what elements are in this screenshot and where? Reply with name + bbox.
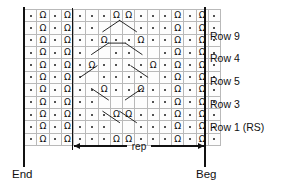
stitch-cell-purl — [184, 84, 196, 96]
knit-stitch-icon: Ω — [172, 121, 183, 132]
stitch-cell-purl — [159, 47, 171, 59]
knit-stitch-icon: Ω — [99, 35, 110, 46]
stitch-cell-purl — [74, 96, 86, 108]
stitch-cell-purl — [159, 121, 171, 133]
stitch-cell-knit: Ω — [172, 10, 184, 22]
stitch-cell-purl — [49, 47, 61, 59]
stitch-cell-knit: Ω — [172, 47, 184, 59]
stitch-cell-purl — [184, 34, 196, 46]
knit-stitch-icon: Ω — [172, 109, 183, 120]
stitch-cell-purl — [135, 121, 147, 133]
stitch-cell-purl — [147, 108, 159, 120]
stitch-cell-purl — [25, 133, 37, 145]
stitch-cell-knit: Ω — [37, 10, 49, 22]
row-label: Row 4 — [210, 53, 240, 64]
stitch-cell-blank — [86, 47, 98, 59]
stitch-cell-purl — [110, 59, 122, 71]
knit-stitch-icon: Ω — [37, 35, 48, 46]
stitch-cell-purl — [49, 96, 61, 108]
stitch-cell-purl — [49, 108, 61, 120]
stitch-cell-purl — [49, 10, 61, 22]
stitch-cell-knit: Ω — [37, 133, 49, 145]
stitch-cell-knit: Ω — [196, 59, 208, 71]
chart-right-border-beg — [204, 7, 206, 167]
stitch-cell-knit: Ω — [172, 96, 184, 108]
stitch-cell-purl — [147, 34, 159, 46]
knit-stitch-icon: Ω — [197, 60, 208, 71]
stitch-cell-purl — [184, 96, 196, 108]
stitch-cell-purl — [110, 71, 122, 83]
knit-stitch-icon: Ω — [37, 60, 48, 71]
stitch-cell-blank — [135, 96, 147, 108]
knit-stitch-icon: Ω — [172, 72, 183, 83]
stitch-cell-purl — [74, 59, 86, 71]
stitch-cell-knit: Ω — [123, 108, 135, 120]
stitch-cell-purl — [147, 96, 159, 108]
knit-stitch-icon: Ω — [148, 60, 159, 71]
stitch-cell-purl — [110, 84, 122, 96]
knit-stitch-icon: Ω — [37, 72, 48, 83]
stitch-cell-purl — [25, 47, 37, 59]
stitch-cell-purl — [123, 47, 135, 59]
stitch-cell-purl — [159, 10, 171, 22]
stitch-cell-blank — [123, 121, 135, 133]
stitch-cell-knit: Ω — [135, 34, 147, 46]
knit-stitch-icon: Ω — [197, 84, 208, 95]
stitch-cell-knit: Ω — [172, 59, 184, 71]
row-label: Row 1 (RS) — [210, 122, 264, 133]
row-label: Row 9 — [210, 31, 240, 42]
stitch-row: ΩΩΩΩ — [25, 22, 221, 34]
stitch-cell-knit: Ω — [86, 59, 98, 71]
stitch-cell-purl — [159, 108, 171, 120]
stitch-cell-purl — [135, 59, 147, 71]
stitch-cell-knit: Ω — [196, 121, 208, 133]
stitch-cell-purl — [98, 108, 110, 120]
stitch-cell-purl — [25, 71, 37, 83]
repeat-boundary-line — [72, 8, 73, 150]
knit-stitch-icon: Ω — [172, 84, 183, 95]
knit-stitch-icon: Ω — [123, 10, 134, 21]
stitch-cell-purl — [49, 34, 61, 46]
stitch-grid-table: ΩΩΩΩΩΩΩΩΩΩΩΩΩΩΩΩΩΩΩΩΩΩΩΩΩΩΩΩΩΩΩΩΩΩΩΩΩΩΩΩ… — [24, 9, 221, 146]
knit-stitch-icon: Ω — [37, 121, 48, 132]
stitch-cell-purl — [25, 121, 37, 133]
stitch-cell-purl — [135, 71, 147, 83]
stitch-cell-purl — [74, 71, 86, 83]
knit-stitch-icon: Ω — [37, 47, 48, 58]
stitch-cell-knit: Ω — [37, 34, 49, 46]
knit-stitch-icon: Ω — [197, 47, 208, 58]
stitch-cell-purl — [184, 47, 196, 59]
stitch-cell-knit: Ω — [123, 10, 135, 22]
stitch-cell-purl — [74, 34, 86, 46]
stitch-cell-knit: Ω — [37, 22, 49, 34]
stitch-cell-purl — [159, 96, 171, 108]
stitch-cell-purl — [123, 34, 135, 46]
stitch-cell-knit: Ω — [196, 10, 208, 22]
stitch-cell-knit: Ω — [172, 34, 184, 46]
stitch-cell-knit: Ω — [172, 71, 184, 83]
stitch-cell-purl — [25, 96, 37, 108]
stitch-row: ΩΩΩΩ — [25, 47, 221, 59]
stitch-cell-purl — [86, 84, 98, 96]
stitch-cell-purl — [74, 22, 86, 34]
knit-stitch-icon: Ω — [197, 23, 208, 34]
stitch-cell-knit: Ω — [172, 121, 184, 133]
stitch-cell-purl — [135, 22, 147, 34]
stitch-cell-knit: Ω — [196, 34, 208, 46]
stitch-cell-purl — [86, 22, 98, 34]
stitch-cell-purl — [159, 59, 171, 71]
stitch-cell-purl — [49, 133, 61, 145]
stitch-grid: ΩΩΩΩΩΩΩΩΩΩΩΩΩΩΩΩΩΩΩΩΩΩΩΩΩΩΩΩΩΩΩΩΩΩΩΩΩΩΩΩ… — [24, 9, 204, 134]
stitch-cell-purl — [86, 121, 98, 133]
stitch-cell-knit: Ω — [147, 59, 159, 71]
stitch-cell-purl — [25, 22, 37, 34]
knit-stitch-icon: Ω — [197, 109, 208, 120]
knit-stitch-icon: Ω — [172, 35, 183, 46]
stitch-cell-purl — [123, 71, 135, 83]
stitch-cell-purl — [86, 10, 98, 22]
repeat-arrow-right-icon — [151, 145, 204, 146]
stitch-cell-blank — [123, 96, 135, 108]
stitch-cell-knit: Ω — [37, 47, 49, 59]
stitch-cell-knit: Ω — [172, 84, 184, 96]
stitch-cell-purl — [86, 108, 98, 120]
